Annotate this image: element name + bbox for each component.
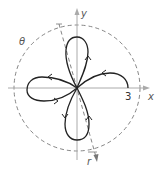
polar-rose-figure: y x θ 3 r	[0, 0, 157, 173]
radius-value-label: 3	[125, 91, 131, 102]
petal-right	[77, 73, 128, 88]
arrow-bottom-left	[62, 114, 68, 118]
x-axis-label: x	[147, 91, 154, 102]
y-axis-label: y	[80, 8, 88, 19]
petal-left	[27, 77, 77, 101]
theta-label: θ	[19, 36, 25, 47]
r-axis-label: r	[87, 156, 92, 167]
